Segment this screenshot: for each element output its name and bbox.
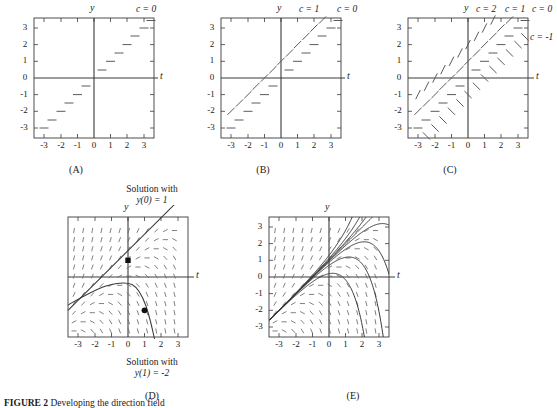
panel-d-xtick-2: 2 <box>154 339 168 349</box>
panel-b-plot <box>195 6 365 151</box>
panel-b-xtick-3: 3 <box>324 140 338 150</box>
panel-c-ytick-2: 2 <box>392 39 406 49</box>
panel-b-xtick-n1: -1 <box>257 140 273 150</box>
panel-c-ytick-1: 1 <box>392 55 406 65</box>
panel-e-xtick-n1: -1 <box>305 339 321 349</box>
panel-c-plot <box>382 6 557 151</box>
panel-d-note-top: Solution with y(0) = 1 <box>92 184 212 206</box>
panel-c-x-axis-label: t <box>536 70 539 81</box>
panel-e-xtick-2: 2 <box>355 339 369 349</box>
figure-caption-label: FIGURE 2 <box>4 398 48 408</box>
panel-a-ytick-n1: -1 <box>16 89 32 99</box>
panel-e-ytick-2: 2 <box>253 238 267 248</box>
slope-field <box>71 228 177 334</box>
panel-a-xtick-1: 1 <box>104 140 118 150</box>
solution-curve-y1-neg2 <box>68 283 155 339</box>
panel-d-xtick-n2: -2 <box>87 339 103 349</box>
slope-field <box>272 228 378 334</box>
panel-c-isocline-label-c0: c = 0 <box>532 4 552 14</box>
panel-c-ytick-n1: -1 <box>390 89 406 99</box>
panel-a-xtick-0: 0 <box>87 140 101 150</box>
panel-c-xtick-3: 3 <box>511 140 525 150</box>
panel-c-isocline-label-c1: c = 1 <box>505 4 525 14</box>
panel-c-ytick-n2: -2 <box>390 105 406 115</box>
panel-b-ytick-2: 2 <box>205 39 219 49</box>
panel-c-xtick-n2: -2 <box>427 140 443 150</box>
panel-b-isocline-label-c0: c = 0 <box>337 4 357 14</box>
panel-a-ytick-3: 3 <box>18 22 32 32</box>
panel-a-xtick-n3: -3 <box>36 140 52 150</box>
panel-e-xtick-1: 1 <box>339 339 353 349</box>
panel-c-ytick-n3: -3 <box>390 122 406 132</box>
panel-a-plot <box>8 6 178 151</box>
panel-e-y-axis-label: y <box>325 201 329 212</box>
panel-d-note-bottom: Solution with y(1) = -2 <box>92 357 212 379</box>
isocline-c0-dashes <box>40 21 156 129</box>
panel-d-xtick-n3: -3 <box>70 339 86 349</box>
panel-e-ytick-0: 0 <box>253 271 267 281</box>
panel-e-caption: (E) <box>333 390 373 401</box>
panel-a-ytick-n3: -3 <box>16 122 32 132</box>
panel-b-ytick-n1: -1 <box>203 89 219 99</box>
panel-a-caption: (A) <box>56 164 96 175</box>
panel-e-ytick-n3: -3 <box>251 321 267 331</box>
panel-c-ytick-3: 3 <box>392 22 406 32</box>
panel-c-xtick-n3: -3 <box>410 140 426 150</box>
isocline-c1-dashes <box>227 16 326 115</box>
panel-b-xtick-1: 1 <box>291 140 305 150</box>
panel-b-isocline-label-c1: c = 1 <box>299 4 319 14</box>
panel-e-ytick-n1: -1 <box>251 288 267 298</box>
isocline-c0-dashes <box>414 21 530 129</box>
panel-e-xtick-n2: -2 <box>288 339 304 349</box>
panel-e-xtick-3: 3 <box>372 339 386 349</box>
panel-c-xtick-0: 0 <box>461 140 475 150</box>
panel-c-isocline-label-cm1: c = -1 <box>530 32 553 42</box>
panel-a-y-axis-label: y <box>90 2 94 13</box>
panel-a-ytick-0: 0 <box>18 72 32 82</box>
panel-a-isocline-label-c0: c = 0 <box>136 4 156 14</box>
panel-a-x-axis-label: t <box>160 70 163 81</box>
panel-b-ytick-n3: -3 <box>203 122 219 132</box>
panel-e-ytick-3: 3 <box>253 221 267 231</box>
panel-d-note-bottom-line2: y(1) = -2 <box>92 368 212 379</box>
panel-a-ytick-n2: -2 <box>16 105 32 115</box>
panel-b-xtick-n2: -2 <box>240 140 256 150</box>
isocline-c1-dashes <box>414 16 513 115</box>
panel-c-xtick-n1: -1 <box>444 140 460 150</box>
panel-c-y-axis-label: y <box>464 2 468 13</box>
figure-caption-body: Developing the direction field <box>50 398 164 408</box>
panel-b-xtick-2: 2 <box>307 140 321 150</box>
panel-d-note-top-line2: y(0) = 1 <box>92 195 212 206</box>
panel-a-xtick-n1: -1 <box>70 140 86 150</box>
panel-e: y t 3 2 1 0 -1 -2 -3 -3 -2 -1 0 1 2 3 <box>243 205 418 355</box>
panel-e-plot <box>243 205 418 355</box>
panel-a-ytick-1: 1 <box>18 55 32 65</box>
panel-e-ytick-n2: -2 <box>251 304 267 314</box>
panel-e-xtick-n3: -3 <box>271 339 287 349</box>
panel-e-xtick-0: 0 <box>322 339 336 349</box>
panel-d-plot <box>42 205 217 355</box>
panel-a-xtick-n2: -2 <box>53 140 69 150</box>
panel-d-x-axis-label: t <box>196 269 199 280</box>
panel-b-x-axis-label: t <box>347 70 350 81</box>
panel-d-note-top-line1: Solution with <box>92 184 212 195</box>
panel-d-xtick-0: 0 <box>121 339 135 349</box>
panel-b-y-axis-label: y <box>277 2 281 13</box>
panel-b: y t c = 1 c = 0 3 2 1 0 -1 -2 -3 -3 -2 -… <box>195 6 365 151</box>
panel-b-xtick-n3: -3 <box>223 140 239 150</box>
isocline-c0-dashes <box>227 21 343 129</box>
panel-a-ytick-2: 2 <box>18 39 32 49</box>
panel-b-ytick-3: 3 <box>205 22 219 32</box>
panel-d-xtick-1: 1 <box>138 339 152 349</box>
panel-d-note-bottom-line1: Solution with <box>92 357 212 368</box>
panel-d: y t -3 -2 -1 0 1 2 3 <box>42 205 217 355</box>
panel-b-xtick-0: 0 <box>274 140 288 150</box>
isocline-c2-dashes <box>416 15 496 99</box>
panel-a-xtick-3: 3 <box>137 140 151 150</box>
figure-caption: FIGURE 2 Developing the direction field <box>4 398 165 408</box>
marked-point-0-1 <box>125 258 130 263</box>
panel-b-ytick-n2: -2 <box>203 105 219 115</box>
panel-c: y t c = 2 c = 1 c = 0 c = -1 3 2 1 0 -1 … <box>382 6 557 151</box>
isocline-cm1-dashes <box>423 33 529 139</box>
panel-e-ytick-1: 1 <box>253 254 267 264</box>
